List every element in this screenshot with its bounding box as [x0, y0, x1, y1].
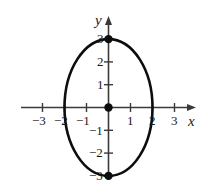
- x-axis-arrow-icon: [187, 104, 196, 111]
- x-tick-label-neg3: −3: [32, 114, 46, 127]
- point-marker-top: [104, 35, 112, 43]
- y-tick-label-neg3: −3: [89, 169, 103, 182]
- y-axis-label: y: [95, 13, 102, 28]
- y-tick-label-neg1: −1: [89, 124, 103, 137]
- y-axis-arrow-icon: [105, 16, 112, 25]
- point-marker-bottom: [104, 172, 112, 180]
- x-tick-label-neg1: −1: [76, 114, 90, 127]
- x-tick-label-neg2: −2: [54, 114, 68, 127]
- x-axis-label: x: [188, 114, 195, 129]
- y-tick-label-neg2: −2: [89, 146, 103, 159]
- x-tick-label-2: 2: [149, 114, 156, 127]
- y-tick-label-2: 2: [97, 55, 104, 68]
- x-tick-label-3: 3: [171, 114, 178, 127]
- point-marker-origin: [104, 103, 112, 111]
- y-tick-label-1: 1: [97, 78, 104, 91]
- coordinate-plot: [0, 0, 208, 195]
- x-tick-label-1: 1: [127, 114, 134, 127]
- y-tick-label-3: 3: [97, 32, 104, 45]
- ellipse-graph-figure: −3 −2 −1 1 2 3 3 2 1 −1 −2 −3 x y: [0, 0, 208, 195]
